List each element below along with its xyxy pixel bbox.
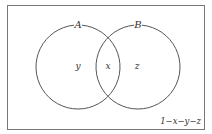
intersection-label: x [105, 61, 110, 71]
venn-diagram: A B y x z 1−x−y−z [0, 0, 212, 134]
region-a-only-label: y [74, 61, 81, 71]
set-a-label: A [73, 19, 81, 30]
outside-label: 1−x−y−z [160, 116, 201, 126]
set-b-label: B [133, 19, 141, 30]
region-b-only-label: z [134, 61, 140, 71]
